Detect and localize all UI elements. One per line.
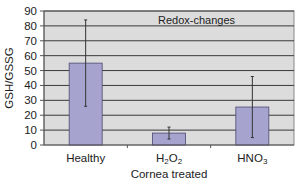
y-axis-title: GSH/GSSG [3, 47, 15, 108]
chart-title: Redox-changes [158, 14, 236, 26]
x-tick-label-h2o2: H2O2 [156, 152, 183, 166]
y-tick-label: 40 [24, 79, 37, 91]
y-tick-label: 60 [24, 50, 37, 62]
y-tick-label: 30 [24, 94, 37, 106]
y-tick-label: 50 [24, 65, 37, 77]
y-tick-label: 10 [24, 124, 37, 136]
y-axis-ticks: 0102030405060708090 [24, 5, 44, 151]
x-tick-label-hno3: HNO3 [237, 152, 268, 166]
y-tick-label: 0 [31, 139, 37, 151]
y-tick-label: 20 [24, 109, 37, 121]
bar-chart: 0102030405060708090 HealthyH2O2HNO3 Redo… [0, 0, 304, 186]
y-tick-label: 90 [24, 5, 37, 17]
y-tick-label: 70 [24, 35, 37, 47]
x-axis-title: Cornea treated [131, 168, 208, 180]
y-tick-label: 80 [24, 20, 37, 32]
x-axis-labels: HealthyH2O2HNO3 [66, 145, 268, 166]
x-tick-label-healthy: Healthy [66, 152, 105, 164]
